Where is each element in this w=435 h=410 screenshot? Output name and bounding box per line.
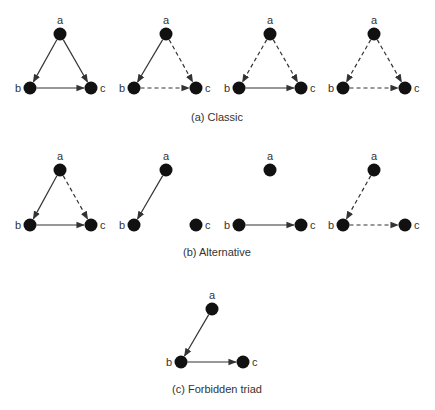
node-label-c: c — [205, 82, 211, 94]
node-label-a: a — [267, 150, 274, 162]
node-b — [24, 82, 37, 95]
node-label-b: b — [15, 219, 21, 231]
triad-classic-2: abc — [119, 14, 211, 95]
edge-a-b-solid — [33, 176, 57, 219]
edge-a-c-dashed — [63, 176, 87, 219]
node-label-c: c — [414, 219, 420, 231]
node-a — [160, 28, 173, 41]
edge-a-b-dashed — [242, 40, 266, 82]
node-c — [399, 82, 412, 95]
caption-classic: (a) Classic — [191, 111, 243, 123]
node-a — [264, 164, 277, 177]
triad-alternative-3: abc — [224, 150, 316, 232]
node-b — [128, 219, 141, 232]
node-label-a: a — [371, 150, 378, 162]
node-c — [190, 82, 203, 95]
edge-a-b-dashed — [346, 176, 370, 219]
node-label-c: c — [205, 219, 211, 231]
node-label-c: c — [310, 82, 316, 94]
node-label-c: c — [100, 219, 106, 231]
node-c — [85, 219, 98, 232]
node-a — [368, 28, 381, 41]
node-c — [237, 356, 250, 369]
node-label-b: b — [119, 82, 125, 94]
node-label-a: a — [267, 14, 274, 26]
edge-a-b-solid — [33, 40, 56, 82]
node-a — [206, 303, 219, 316]
node-label-a: a — [163, 150, 170, 162]
edge-a-b-solid — [138, 176, 163, 219]
node-c — [190, 219, 203, 232]
triad-classic-1: abc — [15, 14, 106, 95]
node-label-c: c — [252, 356, 258, 368]
node-a — [54, 28, 67, 41]
edge-a-c-dashed — [377, 40, 401, 82]
node-label-b: b — [15, 82, 21, 94]
node-label-b: b — [224, 82, 230, 94]
node-b — [337, 82, 350, 95]
triad-classic-4: abc — [328, 14, 420, 95]
edge-a-c-dashed — [273, 40, 297, 82]
node-label-b: b — [166, 356, 172, 368]
node-c — [399, 219, 412, 232]
node-label-c: c — [310, 219, 316, 231]
edge-a-c-dashed — [169, 40, 192, 82]
node-c — [295, 82, 308, 95]
triad-classic-3: abc — [224, 14, 316, 95]
node-label-a: a — [57, 14, 64, 26]
node-b — [24, 219, 37, 232]
triad-alternative-2: abc — [119, 150, 211, 232]
node-a — [264, 28, 277, 41]
node-label-a: a — [163, 14, 170, 26]
node-a — [160, 164, 173, 177]
node-label-a: a — [209, 289, 216, 301]
node-label-b: b — [328, 82, 334, 94]
node-b — [175, 356, 188, 369]
node-label-b: b — [224, 219, 230, 231]
node-label-b: b — [328, 219, 334, 231]
node-a — [54, 164, 67, 177]
node-label-a: a — [57, 150, 64, 162]
nodes-layer: abcabcabcabcabcabcabcabcabc — [15, 14, 420, 369]
triad-alternative-1: abc — [15, 150, 106, 232]
node-b — [337, 219, 350, 232]
triad-forbidden-1: abc — [166, 289, 258, 369]
triad-alternative-4: abc — [328, 150, 420, 232]
node-a — [368, 164, 381, 177]
node-label-c: c — [414, 82, 420, 94]
node-b — [233, 82, 246, 95]
caption-forbidden-triad: (c) Forbidden triad — [172, 383, 262, 395]
node-label-c: c — [100, 82, 106, 94]
node-label-b: b — [119, 219, 125, 231]
node-label-a: a — [371, 14, 378, 26]
edge-a-b-solid — [185, 315, 209, 356]
node-b — [128, 82, 141, 95]
caption-alternative: (b) Alternative — [183, 246, 251, 258]
node-b — [233, 219, 246, 232]
edge-a-c-solid — [63, 40, 87, 82]
triad-diagram: abcabcabcabcabcabcabcabcabc — [0, 0, 435, 410]
edge-a-b-dashed — [346, 40, 370, 82]
node-c — [85, 82, 98, 95]
edge-a-b-solid — [138, 40, 163, 82]
node-c — [295, 219, 308, 232]
